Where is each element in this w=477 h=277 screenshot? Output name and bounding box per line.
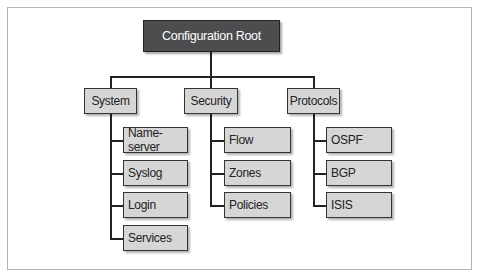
node-flow: Flow	[224, 127, 291, 153]
protocols-tick	[313, 173, 326, 175]
node-services: Services	[123, 225, 188, 251]
node-login: Login	[123, 192, 188, 218]
protocols-drop	[313, 76, 315, 88]
protocols-stem	[313, 114, 315, 206]
node-bgp: BGP	[326, 160, 392, 186]
system-tick	[110, 205, 123, 207]
node-syslog: Syslog	[123, 160, 188, 186]
node-ospf: OSPF	[326, 127, 392, 153]
protocols-tick	[313, 140, 326, 142]
node-configuration-root: Configuration Root	[143, 20, 280, 52]
node-security: Security	[184, 88, 238, 114]
root-stem	[210, 52, 212, 76]
security-tick	[210, 140, 224, 142]
security-tick	[210, 205, 224, 207]
node-isis: ISIS	[326, 192, 392, 218]
system-tick	[110, 238, 123, 240]
protocols-tick	[313, 205, 326, 207]
node-system: System	[84, 88, 137, 114]
system-tick	[110, 140, 123, 142]
system-tick	[110, 173, 123, 175]
system-stem	[110, 114, 112, 239]
node-name-server: Name-server	[123, 127, 188, 153]
node-policies: Policies	[224, 192, 291, 218]
security-drop	[210, 76, 212, 88]
node-protocols: Protocols	[287, 88, 340, 114]
security-stem	[210, 114, 212, 206]
system-drop	[110, 76, 112, 88]
security-tick	[210, 173, 224, 175]
node-zones: Zones	[224, 160, 291, 186]
level1-bus	[110, 76, 314, 78]
